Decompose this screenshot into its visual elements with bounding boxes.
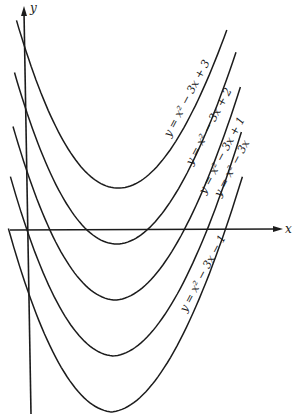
y-axis-label: y — [29, 1, 37, 15]
curve-label-4: y = x² − 3x − 1 — [177, 232, 229, 315]
y-axis — [24, 12, 31, 414]
x-axis-label: x — [285, 222, 292, 236]
curve-group — [8, 20, 242, 412]
parabola-curve-4 — [8, 177, 242, 412]
y-axis-arrow-icon — [21, 6, 27, 16]
parabola-family-diagram: y x y = x² − 3x + 3y = x² − 3x + 2y = x²… — [0, 0, 293, 414]
parabola-curve-3 — [10, 132, 241, 356]
x-axis-arrow-icon — [273, 226, 283, 232]
